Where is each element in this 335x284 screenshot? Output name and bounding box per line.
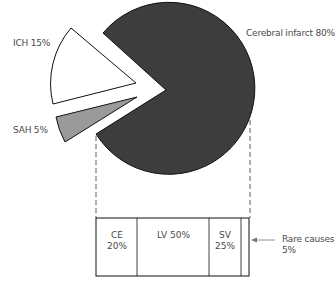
segment-ce: CE 20% [97, 230, 137, 252]
label-sah: SAH 5% [13, 124, 48, 136]
segment-sv-name: SV [209, 230, 241, 241]
label-rare-causes-value: 5% [282, 245, 334, 256]
segment-ce-name: CE [97, 230, 137, 241]
label-cerebral-infarct: Cerebral infarct 80% [246, 27, 335, 39]
arrow-head-icon [251, 238, 257, 243]
label-ich: ICH 15% [13, 37, 50, 49]
pie-slice-cerebral-infarct [96, 2, 255, 174]
label-rare-causes-name: Rare causes [282, 234, 334, 245]
segment-sv-value: 25% [209, 241, 241, 252]
segment-ce-value: 20% [97, 241, 137, 252]
segment-lv-label: LV 50% [138, 230, 209, 241]
segment-sv: SV 25% [209, 230, 241, 252]
segment-lv: LV 50% [138, 230, 209, 241]
label-rare-causes: Rare causes 5% [282, 234, 334, 256]
